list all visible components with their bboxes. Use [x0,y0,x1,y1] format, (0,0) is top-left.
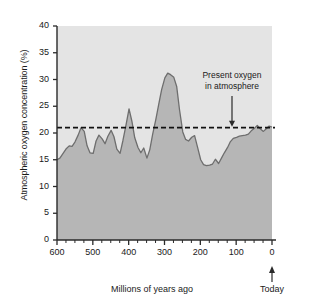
x-tick-label-100: 100 [220,247,252,257]
annotation-line-2: in atmosphere [205,81,259,91]
y-tick-label-35: 35 [29,47,49,57]
x-tick-label-300: 300 [149,247,181,257]
oxygen-concentration-chart: Atmospheric oxygen concentration (%) Mil… [0,0,312,308]
x-tick-label-200: 200 [184,247,216,257]
y-tick-label-40: 40 [29,20,49,30]
y-tick-label-15: 15 [29,154,49,164]
present-oxygen-annotation: Present oxygen in atmosphere [176,70,288,92]
y-tick-label-30: 30 [29,74,49,84]
y-tick-label-10: 10 [29,181,49,191]
annotation-line-1: Present oxygen [202,70,261,80]
y-tick-label-20: 20 [29,127,49,137]
x-tick-label-600: 600 [41,247,73,257]
y-tick-label-25: 25 [29,100,49,110]
x-tick-label-400: 400 [113,247,145,257]
y-axis-label: Atmospheric oxygen concentration (%) [19,5,29,245]
today-label: Today [248,284,296,294]
x-tick-label-500: 500 [77,247,109,257]
today-arrow-head [269,266,275,273]
x-tick-label-0: 0 [256,247,288,257]
y-tick-label-0: 0 [29,234,49,244]
x-axis-label: Millions of years ago [57,284,247,294]
y-tick-label-5: 5 [29,207,49,217]
